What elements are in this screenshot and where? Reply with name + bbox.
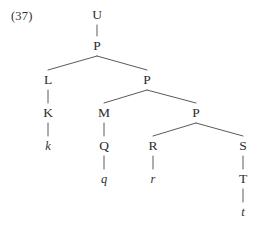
- tree-edge-P1-L: [48, 56, 97, 70]
- tree-node-R: R: [148, 139, 157, 153]
- tree-node-K: K: [43, 106, 53, 120]
- tree-node-t: t: [241, 206, 244, 219]
- tree-node-M: M: [98, 106, 110, 120]
- tree-node-S: S: [239, 139, 247, 153]
- tree-node-Q: Q: [99, 139, 109, 153]
- tree-node-q: q: [101, 173, 107, 186]
- tree-edges-svg: [0, 0, 263, 227]
- tree-edge-P2-M: [104, 90, 147, 103]
- tree-edge-P1-P2: [97, 56, 147, 70]
- syntax-tree-figure: (37) UPLPKMPkQRSqrTt: [0, 0, 263, 227]
- tree-edge-P3-S: [196, 123, 243, 136]
- tree-node-U: U: [92, 8, 102, 22]
- tree-node-P2: P: [143, 73, 151, 87]
- tree-node-T: T: [239, 172, 247, 186]
- tree-node-L: L: [44, 73, 52, 87]
- tree-edge-P3-R: [153, 123, 196, 136]
- tree-edge-P2-P3: [147, 90, 196, 103]
- tree-node-r: r: [151, 173, 156, 186]
- tree-node-k: k: [45, 140, 51, 153]
- tree-node-P1: P: [93, 39, 101, 53]
- tree-node-P3: P: [192, 106, 200, 120]
